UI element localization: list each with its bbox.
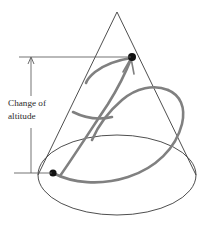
geodesic-curves-group [53,58,183,182]
geodesic-spiral-upper-arc [92,87,168,140]
diagram-canvas: Change of altitude [0,0,211,230]
altitude-label-line1: Change of [8,98,47,108]
cone-outline-group [38,12,196,215]
altitude-label-group: Change of altitude [8,98,47,121]
cone-geodesic-diagram: Change of altitude [0,0,211,230]
altitude-label-line2: altitude [8,111,36,121]
